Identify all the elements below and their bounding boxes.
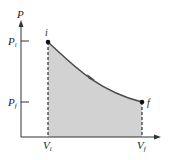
point-i-label: i [45, 27, 48, 38]
pv-diagram: P Pi Pf Vi Vf i f [0, 0, 175, 160]
point-i [46, 40, 51, 45]
vi-label: Vi [43, 139, 52, 153]
work-area [48, 42, 142, 137]
pi-label: Pi [7, 35, 17, 49]
vf-label: Vf [137, 139, 147, 153]
pf-label: Pf [7, 96, 18, 110]
y-axis-label: P [16, 8, 24, 20]
point-f-label: f [147, 97, 151, 108]
x-axis-arrow-icon [154, 135, 161, 140]
point-f [140, 100, 145, 105]
y-axis-arrow-icon [19, 20, 24, 27]
